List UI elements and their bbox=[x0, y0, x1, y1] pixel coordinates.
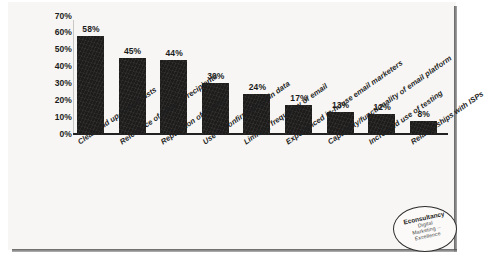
bar-value-label: 24% bbox=[236, 82, 278, 92]
bar-group: 13% bbox=[323, 16, 365, 134]
bar-chart: 70%60%50%40%30%20%10%0% 58%45%44%30%24%1… bbox=[8, 2, 456, 250]
bar-value-label: 8% bbox=[403, 109, 445, 119]
bar[interactable] bbox=[160, 60, 187, 134]
bar-value-label: 13% bbox=[320, 100, 362, 110]
bar[interactable] bbox=[410, 121, 437, 134]
bar[interactable] bbox=[368, 114, 395, 134]
bar-group: 44% bbox=[156, 16, 198, 134]
y-axis-tick-label: 10% bbox=[32, 113, 72, 122]
y-axis: 70%60%50%40%30%20%10%0% bbox=[26, 2, 72, 250]
bar-group: 8% bbox=[406, 16, 448, 134]
econsultancy-logo: Econsultancy Digital Marketing -- Excell… bbox=[393, 206, 457, 252]
bar-value-label: 17% bbox=[278, 93, 320, 103]
bar[interactable] bbox=[77, 36, 104, 134]
bar-value-label: 45% bbox=[112, 46, 154, 56]
bar[interactable] bbox=[202, 83, 229, 134]
bar-group: 45% bbox=[115, 16, 157, 134]
y-axis-tick-label: 50% bbox=[32, 45, 72, 54]
y-axis-tick-label: 30% bbox=[32, 79, 72, 88]
bar-value-label: 44% bbox=[153, 48, 195, 58]
bar[interactable] bbox=[327, 112, 354, 134]
bar-value-label: 58% bbox=[70, 24, 112, 34]
y-axis-tick-label: 70% bbox=[32, 12, 72, 21]
bar-group: 58% bbox=[73, 16, 115, 134]
y-axis-tick-label: 60% bbox=[32, 28, 72, 37]
bar-group: 17% bbox=[281, 16, 323, 134]
bar[interactable] bbox=[119, 58, 146, 134]
y-axis-tick-label: 0% bbox=[32, 130, 72, 139]
plot-area: 58%45%44%30%24%17%13%12%8% bbox=[73, 16, 448, 134]
bar[interactable] bbox=[285, 105, 312, 134]
bar-value-label: 30% bbox=[195, 71, 237, 81]
bar[interactable] bbox=[243, 94, 270, 134]
y-axis-tick-label: 20% bbox=[32, 96, 72, 105]
bar-group: 12% bbox=[364, 16, 406, 134]
bar-group: 24% bbox=[239, 16, 281, 134]
bar-group: 30% bbox=[198, 16, 240, 134]
y-axis-tick-label: 40% bbox=[32, 62, 72, 71]
bar-value-label: 12% bbox=[361, 102, 403, 112]
